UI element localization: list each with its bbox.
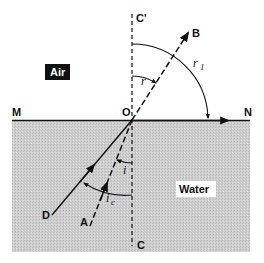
label-m: M [12,106,21,118]
label-o: O [122,106,131,118]
label-a: A [80,216,88,228]
label-c-prime: C' [136,12,147,24]
label-n: N [244,106,252,118]
label-angle-r1-sub: 1 [200,62,205,72]
label-b: B [192,27,200,39]
label-angle-ic-sub: c [111,197,115,207]
label-angle-ic: i [106,191,109,205]
air-label: Air [50,66,66,78]
water-label: Water [179,183,210,195]
label-angle-i: i [123,163,126,177]
label-c: C [137,239,145,251]
label-angle-r: r [141,74,146,88]
label-angle-r1: r [193,56,198,70]
refraction-diagram: M N O C' C B A D r r 1 i i c Air Water [0,0,264,263]
label-d: D [42,209,50,221]
